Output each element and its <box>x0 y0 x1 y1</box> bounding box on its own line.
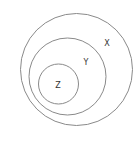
set-x-label: X <box>104 39 110 48</box>
set-x-circle <box>21 14 133 126</box>
set-y-circle <box>29 38 106 115</box>
set-z-label: Z <box>55 81 61 90</box>
set-y-label: Y <box>83 58 89 67</box>
nested-venn-diagram: X Y Z <box>0 0 140 141</box>
